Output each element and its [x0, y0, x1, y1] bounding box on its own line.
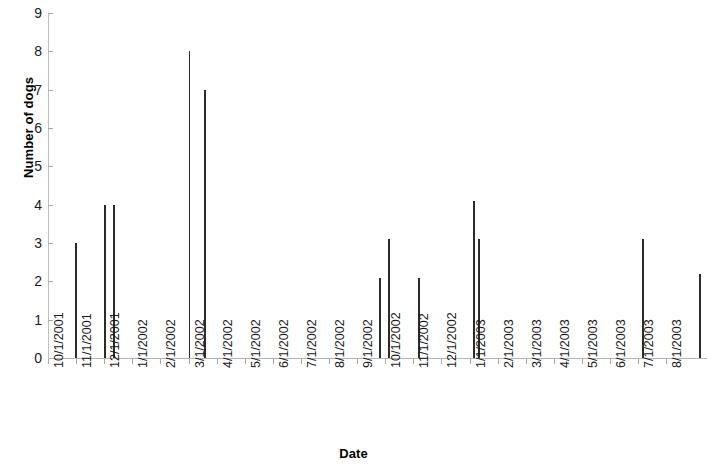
x-axis-tick-mark [132, 359, 133, 364]
data-spike [379, 278, 381, 359]
x-axis-tick-label: 11/1/2002 [418, 313, 431, 368]
x-axis-tick-label: 8/1/2002 [334, 319, 347, 368]
x-axis-tick-mark [441, 359, 442, 364]
x-axis-tick-label: 1/1/2003 [475, 319, 488, 368]
x-axis-tick-mark [48, 359, 49, 364]
x-axis-tick-mark [245, 359, 246, 364]
x-axis-tick-label: 5/1/2003 [587, 319, 600, 368]
y-axis-tick-label: 8 [24, 44, 42, 58]
data-spike [75, 243, 77, 358]
x-axis-tick-mark [357, 359, 358, 364]
x-axis-tick-label: 2/1/2002 [165, 319, 178, 368]
x-axis-tick-label: 7/1/2002 [306, 319, 319, 368]
y-axis-tick-label: 1 [24, 313, 42, 327]
x-axis-tick-mark [638, 359, 639, 364]
x-axis-tick-mark [385, 359, 386, 364]
x-axis-tick-mark [189, 359, 190, 364]
x-axis-tick-mark [554, 359, 555, 364]
y-axis-tick-label: 0 [24, 351, 42, 365]
x-axis-tick-label: 6/1/2003 [615, 319, 628, 368]
x-axis-tick-mark [413, 359, 414, 364]
x-axis-tick-label: 4/1/2003 [559, 319, 572, 368]
y-axis-tick-label: 2 [24, 274, 42, 288]
x-axis-tick-label: 9/1/2002 [362, 319, 375, 368]
x-axis-tick-label: 2/1/2003 [503, 319, 516, 368]
x-axis-tick-label: 8/1/2003 [671, 319, 684, 368]
plot-area [48, 13, 707, 358]
data-spike [104, 205, 106, 358]
y-axis-tick-label: 9 [24, 6, 42, 20]
x-axis-tick-mark [526, 359, 527, 364]
x-axis-tick-mark [498, 359, 499, 364]
x-axis-tick-mark [76, 359, 77, 364]
x-axis-tick-label: 12/1/2002 [446, 312, 459, 368]
y-axis-tick-label: 3 [24, 236, 42, 250]
x-axis-tick-label: 12/1/2001 [109, 312, 122, 368]
x-axis-tick-label: 4/1/2002 [222, 319, 235, 368]
x-axis-tick-mark [273, 359, 274, 364]
x-axis-tick-mark [470, 359, 471, 364]
x-axis-tick-mark [301, 359, 302, 364]
x-axis-title: Date [0, 446, 707, 461]
data-spike [204, 90, 206, 358]
y-axis-tick-labels: 0123456789 [14, 0, 42, 367]
y-axis-tick-label: 5 [24, 159, 42, 173]
y-axis-tick-label: 7 [24, 83, 42, 97]
x-axis-tick-label: 5/1/2002 [250, 319, 263, 368]
y-axis-tick-label: 6 [24, 121, 42, 135]
x-axis-tick-label: 10/1/2001 [53, 312, 66, 368]
x-axis-tick-mark [666, 359, 667, 364]
x-axis-tick-label: 6/1/2002 [278, 319, 291, 368]
data-spike [699, 274, 701, 358]
x-axis-tick-mark [104, 359, 105, 364]
x-axis-tick-label: 1/1/2002 [137, 319, 150, 368]
y-axis-tick-label: 4 [24, 198, 42, 212]
x-axis-tick-label: 10/1/2002 [390, 312, 403, 368]
x-axis-tick-label: 3/1/2002 [194, 319, 207, 368]
x-axis-tick-mark [610, 359, 611, 364]
x-axis-tick-mark [160, 359, 161, 364]
chart-container: Number of dogs 0123456789 10/1/200111/1/… [0, 0, 707, 467]
x-axis-tick-mark [329, 359, 330, 364]
x-axis-tick-label: 7/1/2003 [643, 319, 656, 368]
x-axis-tick-label: 11/1/2001 [81, 313, 94, 368]
data-spike [189, 51, 191, 358]
x-axis-tick-label: 3/1/2003 [531, 319, 544, 368]
x-axis-tick-mark [582, 359, 583, 364]
x-axis-tick-mark [217, 359, 218, 364]
